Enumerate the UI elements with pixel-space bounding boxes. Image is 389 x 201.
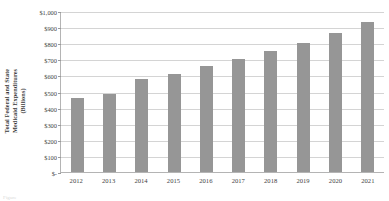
y-axis-tick-label: $600 <box>44 73 57 80</box>
x-axis-tick-label: 2016 <box>190 176 222 190</box>
bar-2018 <box>264 51 277 172</box>
bar-slot <box>158 12 190 172</box>
x-axis-tick-label: 2019 <box>287 176 319 190</box>
plot-area <box>60 12 384 173</box>
bar-slot <box>255 12 287 172</box>
y-axis-tick-label: $800 <box>44 41 57 48</box>
bar-2014 <box>135 79 148 172</box>
y-axis-tick-labels: $-$100$200$300$400$500$600$700$800$900$1… <box>26 8 60 176</box>
caption-artifact: Figure <box>3 195 17 200</box>
bar-2012 <box>71 98 84 172</box>
x-axis-tick-labels: 2012201320142015201620172018201920202021 <box>60 176 384 190</box>
bar-2015 <box>168 74 181 172</box>
bar-slot <box>61 12 93 172</box>
bar-2019 <box>297 43 310 172</box>
bar-2020 <box>329 33 342 172</box>
x-axis-tick-label: 2020 <box>319 176 351 190</box>
bar-slot <box>287 12 319 172</box>
x-axis-tick-label: 2017 <box>222 176 254 190</box>
x-axis-tick-label: 2021 <box>352 176 384 190</box>
y-axis-tick <box>58 173 61 174</box>
bar-2016 <box>200 66 213 172</box>
bar-2017 <box>232 59 245 172</box>
y-axis-title-line-2: Medicaid Expenditures <box>11 68 19 132</box>
x-axis-tick-label: 2018 <box>254 176 286 190</box>
y-axis-title-line-1: Total Federal and State <box>3 68 10 132</box>
x-axis-tick-label: 2013 <box>92 176 124 190</box>
bar-2013 <box>103 94 116 172</box>
x-axis-tick-label: 2015 <box>157 176 189 190</box>
y-axis-tick-label: $400 <box>44 105 57 112</box>
y-axis-tick-label: $900 <box>44 25 57 32</box>
y-axis-tick-label: $- <box>52 170 57 177</box>
x-axis-tick-label: 2012 <box>60 176 92 190</box>
y-axis-tick-label: $1,000 <box>39 9 57 16</box>
bars-container <box>61 12 384 172</box>
x-axis-tick-label: 2014 <box>125 176 157 190</box>
bar-chart-figure: Total Federal and State Medicaid Expendi… <box>0 0 389 201</box>
bar-slot <box>93 12 125 172</box>
y-axis-tick-label: $700 <box>44 57 57 64</box>
bar-slot <box>126 12 158 172</box>
bar-2021 <box>361 22 374 172</box>
bar-slot <box>352 12 384 172</box>
y-axis-tick-label: $200 <box>44 137 57 144</box>
y-axis-tick-label: $300 <box>44 121 57 128</box>
y-axis-tick-label: $100 <box>44 153 57 160</box>
y-axis-tick-label: $500 <box>44 89 57 96</box>
bar-slot <box>222 12 254 172</box>
bar-slot <box>319 12 351 172</box>
bar-slot <box>190 12 222 172</box>
